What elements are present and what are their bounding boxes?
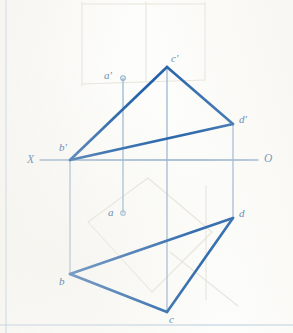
vertex-label-b-prime: b' bbox=[59, 142, 67, 153]
vertex-label-c-prime: c' bbox=[171, 53, 178, 64]
drawing-canvas: X O a'c'd'b'adbc bbox=[0, 0, 293, 333]
vertex-label-a: a bbox=[108, 207, 114, 218]
vertex-label-d-prime: d' bbox=[239, 114, 247, 125]
edge-dprime-bprime bbox=[70, 124, 233, 160]
vertex-label-b: b bbox=[59, 276, 65, 287]
ghost-construction-lines bbox=[82, 2, 238, 306]
edge-d-c bbox=[167, 218, 233, 312]
edge-c-b bbox=[70, 274, 167, 312]
vertex-label-d: d bbox=[239, 208, 245, 219]
edge-b-d bbox=[70, 218, 233, 274]
triangle-edges bbox=[70, 67, 233, 312]
edge-cprime-dprime bbox=[167, 67, 233, 124]
vertex-label-a-prime: a' bbox=[104, 70, 112, 81]
axis-label-x: X bbox=[27, 154, 34, 166]
vertex-label-c: c bbox=[169, 314, 174, 325]
edge-bprime-cprime bbox=[70, 67, 167, 160]
projection-drawing bbox=[0, 0, 293, 333]
axis-label-o: O bbox=[264, 153, 272, 165]
ghost-diag-2 bbox=[148, 178, 212, 232]
ghost-diag-1 bbox=[88, 178, 148, 222]
